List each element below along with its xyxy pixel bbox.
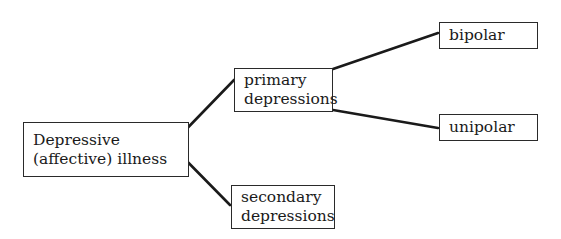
node-secondary-depressions: secondary depressions: [231, 185, 335, 229]
node-label-line: (affective) illness: [33, 150, 167, 169]
node-depressive-illness: Depressive (affective) illness: [23, 122, 189, 177]
node-label-line: primary: [244, 71, 338, 90]
node-label-line: depressions: [241, 207, 335, 226]
node-label-line: depressions: [244, 90, 338, 109]
node-label-line: unipolar: [449, 118, 515, 137]
node-unipolar: unipolar: [439, 114, 538, 141]
edge-primary-bipolar: [333, 33, 438, 69]
node-primary-depressions: primary depressions: [234, 68, 333, 112]
node-bipolar: bipolar: [439, 22, 538, 49]
node-label-line: secondary: [241, 188, 335, 207]
edge-primary-unipolar: [333, 110, 438, 128]
node-label-line: Depressive: [33, 131, 167, 150]
node-label-line: bipolar: [449, 26, 505, 45]
